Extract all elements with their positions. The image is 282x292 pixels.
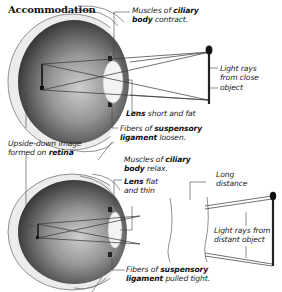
label-text: short and fat [146, 109, 196, 118]
label-text: loosen. [157, 133, 186, 142]
label-text: and thin [124, 186, 155, 195]
label-fibers-pulled-tight: Fibers of suspensory ligament pulled tig… [126, 265, 210, 284]
label-text: flat [144, 177, 158, 186]
label-bold: retina [49, 148, 74, 157]
label-text: Light rays from [214, 226, 270, 235]
label-text: distant object [214, 235, 265, 244]
label-bold: Lens [124, 177, 144, 186]
label-text: relax. [145, 164, 168, 173]
label-text: Long [216, 170, 234, 179]
label-ciliary-relax: Muscles of ciliary body relax. [124, 155, 191, 174]
label-bold: Lens [126, 109, 146, 118]
label-bold: ciliary [165, 155, 190, 164]
label-text: Muscles of [132, 6, 173, 15]
label-retina: Upside-down image formed on retina [8, 139, 82, 158]
label-bold: ligament [120, 133, 157, 142]
label-text: object [220, 83, 243, 92]
label-bold: suspensory [154, 124, 202, 133]
label-text: pulled tight. [163, 274, 210, 283]
label-fibers-loosen: Fibers of suspensory ligament loosen. [120, 124, 202, 143]
diagram-title: Accommodation [8, 4, 96, 15]
label-bold: ciliary [173, 6, 198, 15]
label-bold: ligament [126, 274, 163, 283]
label-text: Fibers of [126, 265, 160, 274]
label-long-distance: Long distance [216, 170, 247, 189]
label-text: formed on [8, 148, 49, 157]
label-text: contract. [153, 15, 188, 24]
label-lens-flat-thin: Lens flat and thin [124, 177, 158, 196]
label-text: Muscles of [124, 155, 165, 164]
label-bold: suspensory [160, 265, 208, 274]
label-light-rays-distant: Light rays from distant object [214, 226, 270, 245]
label-text: Light rays [220, 64, 257, 73]
label-text: Fibers of [120, 124, 154, 133]
label-bold: body [124, 164, 145, 173]
label-text: Upside-down image [8, 139, 82, 148]
label-text: from close [220, 73, 259, 82]
label-ciliary-contract: Muscles of ciliary body contract. [132, 6, 199, 25]
accommodation-diagram: Accommodation Muscles of ciliary body co… [0, 0, 282, 292]
label-lens-short-fat: Lens short and fat [126, 109, 195, 118]
label-text: distance [216, 179, 247, 188]
label-bold: body [132, 15, 153, 24]
label-light-rays-close: Light rays from close object [220, 64, 259, 92]
